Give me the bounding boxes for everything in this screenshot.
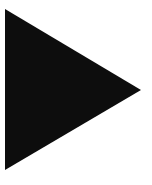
play-triangle-icon [0, 0, 152, 185]
image-canvas: Right-pointing solid triangle [0, 0, 152, 185]
